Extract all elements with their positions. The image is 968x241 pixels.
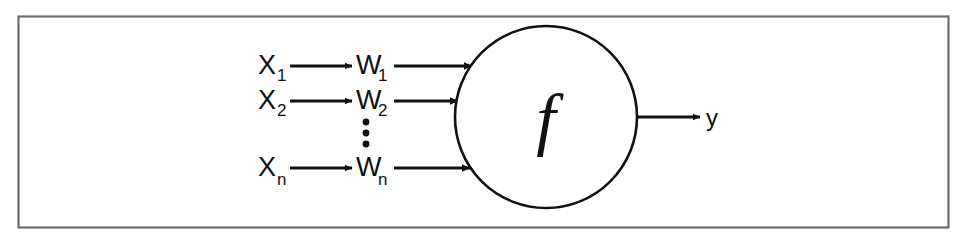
neuron-diagram: X 1 W 1 X 2 W 2 X n W n f y (0, 0, 968, 241)
output-label: y (706, 104, 718, 131)
weight-subscript-n: n (378, 170, 387, 189)
input-label-1: X (258, 50, 276, 80)
weight-subscript-2: 2 (378, 101, 387, 120)
vertical-ellipsis-icon (363, 119, 370, 148)
input-label-n: X (258, 152, 276, 182)
input-label-2: X (258, 85, 276, 115)
weight-subscript-1: 1 (378, 66, 387, 85)
input-subscript-n: n (277, 170, 286, 189)
figure-canvas: X 1 W 1 X 2 W 2 X n W n f y (0, 0, 968, 241)
input-subscript-2: 2 (277, 101, 286, 120)
input-subscript-1: 1 (277, 66, 286, 85)
